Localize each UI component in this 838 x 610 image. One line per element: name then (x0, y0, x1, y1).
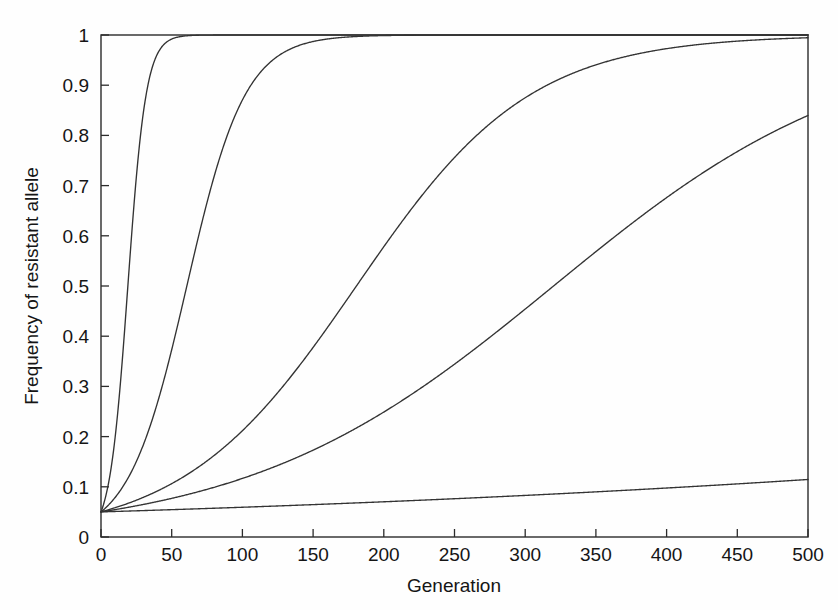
y-tick-label: 0.1 (63, 477, 89, 498)
x-tick-label: 50 (161, 544, 182, 565)
x-axis-tick-labels: 050100150200250300350400450500 (96, 544, 824, 565)
x-tick-label: 450 (721, 544, 753, 565)
y-axis-title: Frequency of resistant allele (21, 167, 42, 405)
curve-curve-2 (101, 35, 808, 512)
x-tick-label: 0 (96, 544, 107, 565)
y-tick-label: 0 (78, 527, 89, 548)
curve-curve-3 (101, 38, 808, 512)
x-tick-label: 350 (580, 544, 612, 565)
y-tick-label: 0.7 (63, 176, 89, 197)
curve-curve-1 (101, 35, 808, 512)
figure-canvas: 050100150200250300350400450500 00.10.20.… (0, 0, 838, 610)
x-tick-label: 100 (227, 544, 259, 565)
y-tick-label: 0.3 (63, 376, 89, 397)
x-tick-label: 150 (297, 544, 329, 565)
x-tick-label: 300 (509, 544, 541, 565)
data-curves (101, 35, 808, 512)
x-tick-label: 250 (439, 544, 471, 565)
y-axis-ticks (101, 35, 109, 537)
y-tick-label: 0.8 (63, 125, 89, 146)
y-tick-label: 0.5 (63, 276, 89, 297)
curve-curve-5 (101, 479, 808, 511)
y-tick-label: 0.2 (63, 427, 89, 448)
chart-plot: 050100150200250300350400450500 00.10.20.… (0, 0, 838, 610)
x-tick-label: 200 (368, 544, 400, 565)
y-tick-label: 0.9 (63, 75, 89, 96)
x-tick-label: 500 (792, 544, 824, 565)
x-axis-title: Generation (407, 575, 501, 596)
x-tick-label: 400 (651, 544, 683, 565)
y-tick-label: 0.4 (63, 326, 90, 347)
y-axis-tick-labels: 00.10.20.30.40.50.60.70.80.91 (63, 25, 90, 548)
y-tick-label: 1 (78, 25, 89, 46)
y-tick-label: 0.6 (63, 226, 89, 247)
x-axis-ticks (101, 529, 808, 537)
curve-curve-4 (101, 116, 808, 512)
